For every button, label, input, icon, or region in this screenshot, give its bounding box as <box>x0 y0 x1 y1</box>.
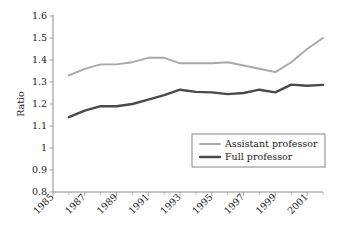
x-tick-label: 1999 <box>253 191 278 216</box>
y-tick-label: 1.2 <box>32 98 47 109</box>
y-tick-label: 0.9 <box>32 164 47 175</box>
y-tick-label: 1.6 <box>32 10 47 21</box>
x-tick-label: 1995 <box>190 191 215 216</box>
y-tick-label: 1.1 <box>32 120 47 131</box>
legend-label-full-professor: Full professor <box>225 151 293 162</box>
x-tick-label: 1997 <box>222 191 247 216</box>
y-tick-label: 1.3 <box>32 76 47 87</box>
legend-label-assistant-professor: Assistant professor <box>224 138 318 149</box>
chart-canvas: 0.80.911.11.21.31.41.51.6198519871989199… <box>0 0 343 239</box>
x-tick-label: 1991 <box>126 191 151 216</box>
series-line-full-professor <box>69 85 323 118</box>
y-tick-label: 1.5 <box>32 32 47 43</box>
x-tick-label: 2001 <box>285 191 310 216</box>
series-line-assistant-professor <box>69 38 323 75</box>
ratio-line-chart: 0.80.911.11.21.31.41.51.6198519871989199… <box>0 0 343 239</box>
y-tick-label: 1.4 <box>32 54 47 65</box>
y-axis-title: Ratio <box>15 91 26 117</box>
x-tick-label: 1987 <box>63 191 88 216</box>
y-tick-label: 1 <box>41 142 47 153</box>
x-tick-label: 1989 <box>94 191 119 216</box>
x-tick-label: 1993 <box>158 191 183 216</box>
